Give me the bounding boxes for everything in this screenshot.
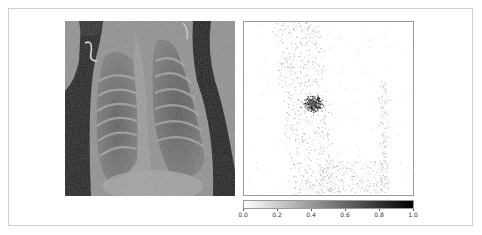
saliency-graphic [243, 21, 414, 196]
tick-label-1: 0.2 [272, 211, 282, 218]
xray-image [65, 21, 235, 196]
tick-label-5: 1.0 [408, 211, 418, 218]
saliency-map [243, 21, 414, 196]
tick-label-3: 0.6 [340, 211, 350, 218]
tick-label-2: 0.4 [306, 211, 316, 218]
colorbar [243, 200, 414, 209]
tick-label-4: 0.8 [374, 211, 384, 218]
xray-graphic [65, 21, 235, 196]
colorbar-ticks: 0.0 0.2 0.4 0.6 0.8 1.0 [243, 209, 414, 223]
tick-label-0: 0.0 [238, 211, 248, 218]
